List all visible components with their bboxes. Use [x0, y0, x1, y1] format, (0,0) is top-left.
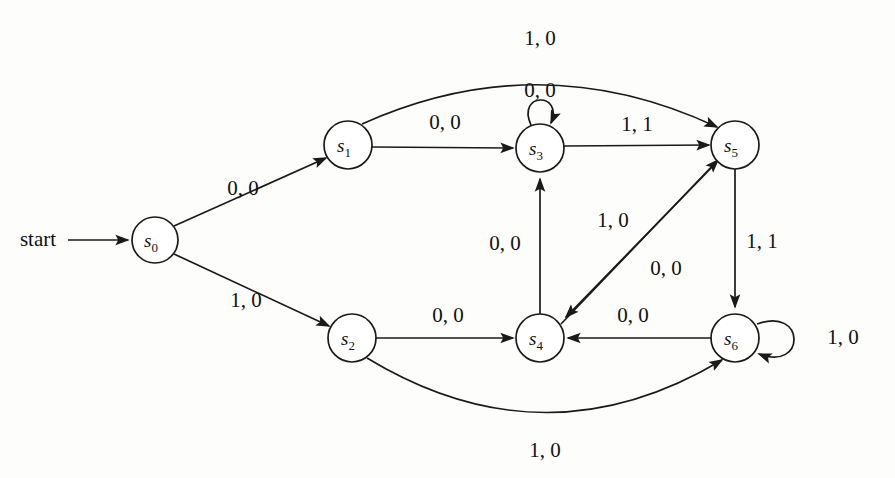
edge-label-s6-s6-selfloop: 1, 0: [827, 325, 859, 349]
edge-label-s6-s4: 0, 0: [617, 303, 649, 327]
fsm-diagram-svg: s0 s1 s2 s3 s4 s5 s6 start 0, 0: [0, 0, 895, 478]
state-node-s6[interactable]: s6: [711, 314, 759, 362]
edge-s5-s4: [566, 163, 716, 317]
state-node-s5[interactable]: s5: [711, 121, 759, 169]
edge-label-s2-s4: 0, 0: [432, 303, 464, 327]
edge-label-s4-s5: 0, 0: [650, 256, 682, 280]
edge-label-s3-s5: 1, 1: [621, 112, 653, 136]
state-node-s3[interactable]: s3: [516, 124, 564, 172]
edge-s6-s6-selfloop: [757, 321, 794, 357]
edge-s3-s3-selfloop: [528, 100, 553, 125]
state-node-s2[interactable]: s2: [328, 314, 376, 362]
edge-label-s5-s6: 1, 1: [746, 229, 778, 253]
edge-s2-s6: [367, 358, 722, 413]
edge-label-s4-s3: 0, 0: [489, 231, 521, 255]
edge-s1-s3: [372, 147, 513, 148]
state-node-s0[interactable]: s0: [132, 217, 178, 263]
edge-label-s5-s4: 1, 0: [597, 208, 629, 232]
edge-label-s2-s6: 1, 0: [529, 438, 561, 462]
state-node-s4[interactable]: s4: [516, 314, 564, 362]
fsm-diagram-canvas: s0 s1 s2 s3 s4 s5 s6 start 0, 0: [0, 0, 895, 478]
start-text: start: [20, 227, 56, 251]
edge-label-s1-s5: 1, 0: [524, 26, 556, 50]
edge-s3-s5: [564, 145, 709, 146]
state-node-s1[interactable]: s1: [324, 121, 372, 169]
edge-label-s0-s2: 1, 0: [230, 288, 262, 312]
edge-label-s0-s1: 0, 0: [227, 176, 259, 200]
edge-label-s3-s3-selfloop: 0, 0: [524, 78, 556, 102]
edge-label-s1-s3: 0, 0: [429, 110, 461, 134]
